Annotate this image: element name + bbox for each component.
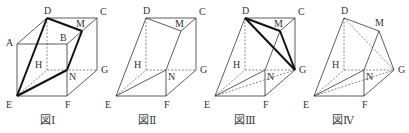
- vertex-label-M: M: [175, 18, 184, 29]
- vertex-label-G: G: [398, 64, 405, 75]
- vertex-label-D: D: [143, 5, 150, 16]
- figure-2: CDEFGHMN: [105, 5, 207, 110]
- edge-MN: [364, 31, 379, 70]
- vertex-label-N: N: [69, 71, 76, 82]
- vertex-label-C: C: [298, 6, 305, 17]
- edge-DG: [245, 18, 295, 70]
- edge-MN: [67, 31, 82, 70]
- vertex-label-F: F: [362, 99, 368, 110]
- vertex-label-G: G: [101, 64, 108, 75]
- edge-EG: [314, 70, 394, 96]
- vertex-label-E: E: [105, 99, 111, 110]
- vertex-label-E: E: [6, 99, 12, 110]
- edge-EG: [215, 70, 295, 96]
- caption-figure-4: 図Ⅳ: [332, 114, 355, 127]
- edge-DE: [314, 18, 344, 96]
- vertex-label-H: H: [233, 59, 240, 70]
- vertex-label-M: M: [274, 18, 283, 29]
- figure-4: DEFGHMN: [303, 5, 405, 110]
- vertex-label-G: G: [299, 64, 306, 75]
- edge-DE: [17, 18, 47, 96]
- vertex-label-H: H: [35, 59, 42, 70]
- figure-1: ABCDEFGHMN: [6, 5, 108, 110]
- edge-MN: [166, 31, 181, 70]
- vertex-label-N: N: [366, 71, 373, 82]
- edge-MG: [379, 31, 394, 70]
- caption-figure-1: 図Ⅰ: [40, 114, 55, 127]
- vertex-label-D: D: [341, 5, 348, 16]
- vertex-label-E: E: [303, 99, 309, 110]
- vertex-label-D: D: [44, 5, 51, 16]
- vertex-label-E: E: [204, 99, 210, 110]
- edge-DE: [215, 18, 245, 96]
- edge-DG: [344, 18, 394, 70]
- edge-DE: [116, 18, 146, 96]
- vertex-label-M: M: [375, 17, 384, 28]
- vertex-label-D: D: [242, 5, 249, 16]
- vertex-label-F: F: [263, 99, 269, 110]
- vertex-label-F: F: [65, 99, 71, 110]
- vertex-label-N: N: [168, 71, 175, 82]
- vertex-label-A: A: [6, 37, 14, 48]
- vertex-label-H: H: [332, 59, 339, 70]
- vertex-label-H: H: [134, 59, 141, 70]
- caption-figure-2: 図Ⅱ: [138, 114, 156, 127]
- edge-MG: [280, 31, 295, 70]
- vertex-label-C: C: [199, 6, 206, 17]
- vertex-label-F: F: [164, 99, 170, 110]
- vertex-label-M: M: [76, 18, 85, 29]
- figure-3: CDEFGHMN: [204, 5, 306, 110]
- caption-figure-3: 図Ⅲ: [234, 114, 256, 127]
- vertex-label-G: G: [200, 64, 207, 75]
- edge-DM: [344, 18, 379, 31]
- edge-MN: [265, 31, 280, 70]
- vertex-label-B: B: [60, 32, 67, 43]
- cube-figures-diagram: ABCDEFGHMN CDEFGHMN CDEFGHMN DEFGHMN 図Ⅰ …: [0, 0, 409, 133]
- vertex-label-C: C: [100, 6, 107, 17]
- vertex-label-N: N: [267, 71, 274, 82]
